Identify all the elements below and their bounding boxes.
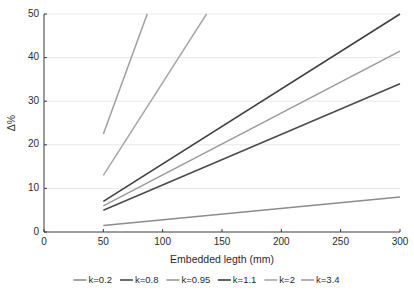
x-tick-label-0: 0 [41, 236, 47, 247]
x-tick-labels: 050100150200250300 [41, 236, 409, 247]
y-tick-labels: 01020304050 [28, 8, 40, 237]
legend-label-k-0-2: k=0.2 [88, 274, 112, 285]
data-series-group [103, 14, 400, 225]
x-tick-label-50: 50 [98, 236, 110, 247]
series-line-k-0-95 [103, 51, 400, 206]
x-tick-label-250: 250 [332, 236, 349, 247]
x-tick-label-300: 300 [392, 236, 409, 247]
y-tick-label-10: 10 [28, 182, 40, 193]
legend-label-k-3-4: k=3.4 [316, 274, 340, 285]
series-line-k-0-8 [103, 84, 400, 210]
chart-legend: k=0.2k=0.8k=0.95k=1.1k=2k=3.4 [73, 274, 339, 285]
y-tick-label-20: 20 [28, 138, 40, 149]
x-tick-label-100: 100 [154, 236, 171, 247]
legend-label-k-0-8: k=0.8 [135, 274, 159, 285]
y-axis-title: Δ% [5, 115, 17, 131]
y-tick-label-0: 0 [33, 226, 39, 237]
legend-label-k-0-95: k=0.95 [181, 274, 210, 285]
legend-label-k-1-1: k=1.1 [233, 274, 257, 285]
grid-lines [44, 14, 400, 188]
series-line-k-2 [103, 14, 206, 175]
y-tick-label-30: 30 [28, 95, 40, 106]
series-line-k-0-2 [103, 197, 400, 225]
x-tick-label-200: 200 [273, 236, 290, 247]
x-tick-label-150: 150 [214, 236, 231, 247]
chart-figure: 050100150200250300 01020304050 Embedded … [0, 0, 414, 290]
axis-lines [44, 14, 400, 232]
x-axis-title: Embedded legth (mm) [170, 253, 274, 265]
series-line-k-1-1 [103, 14, 400, 201]
line-chart: 050100150200250300 01020304050 Embedded … [0, 0, 414, 290]
y-tick-label-40: 40 [28, 51, 40, 62]
y-tick-label-50: 50 [28, 8, 40, 19]
legend-label-k-2: k=2 [279, 274, 295, 285]
